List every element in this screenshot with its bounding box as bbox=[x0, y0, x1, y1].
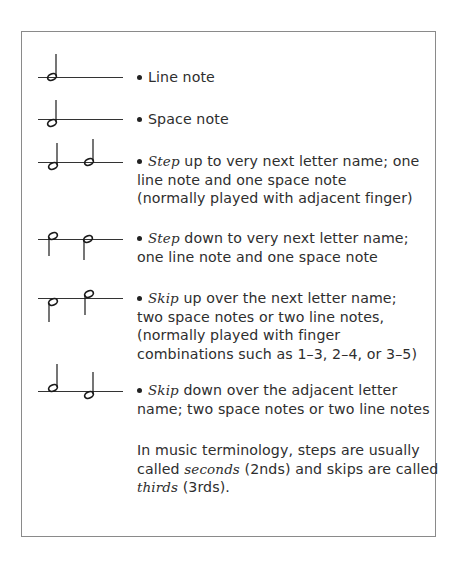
skip-down-notation-icon bbox=[38, 364, 123, 400]
note-text: (3rds). bbox=[178, 479, 230, 495]
term-italic: Skip bbox=[148, 290, 179, 306]
bullet-icon bbox=[137, 117, 142, 122]
item-text: name; two space notes or two line notes bbox=[137, 400, 430, 419]
item-text: two space notes or two line notes, bbox=[137, 308, 417, 327]
terminology-note: In music terminology, steps are usually … bbox=[137, 441, 438, 497]
list-item: Step up to very next letter name; one li… bbox=[137, 152, 419, 208]
term-italic: seconds bbox=[184, 461, 240, 477]
bullet-icon bbox=[137, 296, 142, 301]
note-text: called bbox=[137, 461, 184, 477]
step-down-notation-icon bbox=[38, 231, 123, 260]
note-text: In music terminology, steps are usually bbox=[137, 441, 438, 460]
item-text: (normally played with finger bbox=[137, 326, 417, 345]
item-text: (normally played with adjacent finger) bbox=[137, 189, 419, 208]
line-note-icon bbox=[38, 54, 123, 82]
term-italic: Skip bbox=[148, 382, 179, 398]
note-text: (2nds) and skips are called bbox=[240, 461, 439, 477]
bullet-icon bbox=[137, 388, 142, 393]
space-note-icon bbox=[38, 100, 123, 128]
term-italic: Step bbox=[148, 230, 180, 246]
bullet-icon bbox=[137, 159, 142, 164]
item-text: line note and one space note bbox=[137, 171, 419, 190]
item-text: up to very next letter name; one bbox=[180, 153, 420, 169]
list-item: Step down to very next letter name; one … bbox=[137, 229, 409, 266]
skip-up-notation-icon bbox=[38, 289, 123, 322]
item-text: Space note bbox=[148, 111, 229, 127]
list-item: Skip up over the next letter name; two s… bbox=[137, 289, 417, 363]
step-up-notation-icon bbox=[38, 139, 123, 171]
term-italic: thirds bbox=[137, 479, 178, 495]
item-text: one line note and one space note bbox=[137, 248, 409, 267]
item-text: up over the next letter name; bbox=[179, 290, 397, 306]
item-text: down over the adjacent letter bbox=[179, 382, 398, 398]
list-item: Line note bbox=[137, 68, 215, 87]
item-text: down to very next letter name; bbox=[180, 230, 409, 246]
list-item: Skip down over the adjacent letter name;… bbox=[137, 381, 430, 418]
item-text: Line note bbox=[148, 69, 215, 85]
bullet-icon bbox=[137, 236, 142, 241]
item-text: combinations such as 1–3, 2–4, or 3–5) bbox=[137, 345, 417, 364]
list-item: Space note bbox=[137, 110, 229, 129]
term-italic: Step bbox=[148, 153, 180, 169]
bullet-icon bbox=[137, 75, 142, 80]
